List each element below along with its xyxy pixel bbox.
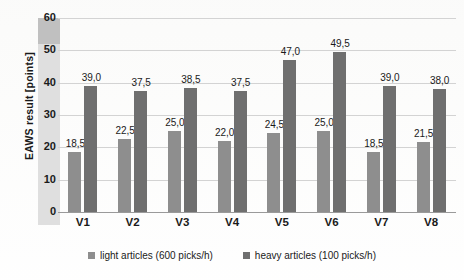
bar-group: 25,049,5: [317, 18, 346, 212]
bar[interactable]: [68, 152, 81, 212]
bar[interactable]: [333, 52, 346, 212]
y-axis-tick-label: 0: [24, 206, 56, 217]
legend-swatch-icon: [243, 252, 250, 259]
bar[interactable]: [317, 131, 330, 212]
legend-swatch-icon: [88, 252, 95, 259]
bar-group: 18,539,0: [367, 18, 396, 212]
bar-group: 24,547,0: [267, 18, 296, 212]
bar-group: 22,037,5: [218, 18, 247, 212]
chart-legend: light articles (600 picks/h)heavy articl…: [0, 250, 464, 261]
bar[interactable]: [383, 86, 396, 212]
bar-group: 21,538,0: [417, 18, 446, 212]
bar[interactable]: [433, 89, 446, 212]
bar-group: 18,539,0: [68, 18, 97, 212]
bar[interactable]: [168, 131, 181, 212]
bar[interactable]: [218, 141, 231, 212]
bar-value-label: 37,5: [224, 78, 258, 88]
bar[interactable]: [417, 142, 430, 212]
legend-label: light articles (600 picks/h): [100, 250, 213, 261]
y-axis-tick-label: 40: [24, 77, 56, 88]
bar[interactable]: [283, 60, 296, 212]
bar-chart-figure: EAWS result [points] 0102030405060 18,53…: [0, 0, 464, 280]
bar[interactable]: [267, 133, 280, 212]
y-axis-title: EAWS result [points]: [23, 16, 35, 196]
y-axis-tick-label: 30: [24, 109, 56, 120]
bar-value-label: 39,0: [74, 73, 108, 83]
bar-value-label: 47,0: [273, 47, 307, 57]
bar-value-label: 38,0: [423, 76, 457, 86]
bar[interactable]: [134, 91, 147, 212]
bar[interactable]: [84, 86, 97, 212]
y-axis-tick-label: 50: [24, 44, 56, 55]
y-axis-tick-label: 60: [24, 12, 56, 23]
bar[interactable]: [118, 139, 131, 212]
bar-value-label: 49,5: [323, 39, 357, 49]
bar-value-label: 37,5: [124, 78, 158, 88]
legend-label: heavy articles (100 picks/h): [255, 250, 376, 261]
y-axis-tick-label: 10: [24, 174, 56, 185]
bar[interactable]: [367, 152, 380, 212]
bar[interactable]: [184, 88, 197, 212]
legend-item[interactable]: light articles (600 picks/h): [88, 250, 213, 261]
bar-group: 25,038,5: [168, 18, 197, 212]
plot-area: 18,539,022,537,525,038,522,037,524,547,0…: [58, 18, 456, 212]
legend-item[interactable]: heavy articles (100 picks/h): [243, 250, 376, 261]
x-axis-line: [58, 212, 456, 213]
bar-value-label: 38,5: [174, 75, 208, 85]
x-axis-tick-label: V8: [401, 216, 461, 228]
bar-group: 22,537,5: [118, 18, 147, 212]
bar-value-label: 39,0: [373, 73, 407, 83]
y-axis-tick-label: 20: [24, 141, 56, 152]
bar[interactable]: [234, 91, 247, 212]
